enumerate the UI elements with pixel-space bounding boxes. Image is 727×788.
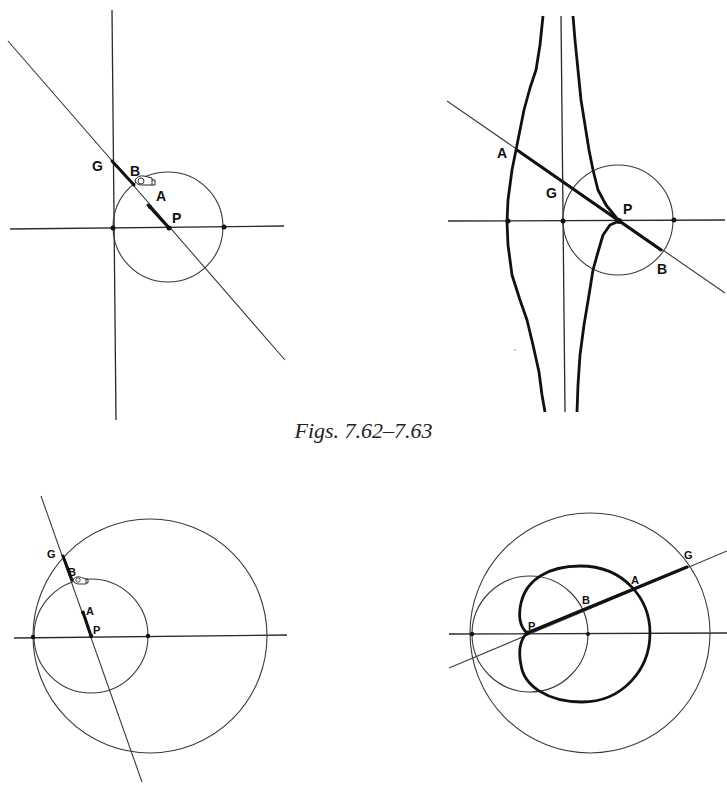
point: [470, 632, 474, 636]
label-p: P: [528, 620, 535, 632]
label-g: G: [684, 549, 693, 561]
point: [586, 632, 590, 636]
label-a: A: [631, 574, 639, 586]
label-b: B: [582, 594, 590, 606]
segment-p-g: [527, 567, 687, 633]
figure-7-63-right: P B A G: [0, 0, 727, 788]
